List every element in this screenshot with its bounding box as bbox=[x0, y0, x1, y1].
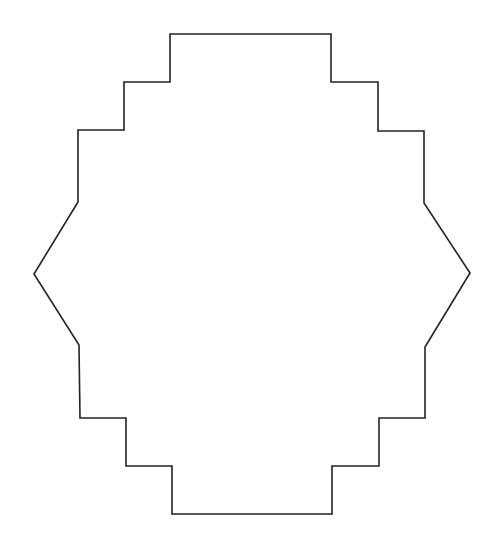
diagram-svg bbox=[0, 0, 493, 544]
diagram-canvas bbox=[0, 0, 493, 544]
stepped-octagon-shape bbox=[34, 34, 470, 514]
